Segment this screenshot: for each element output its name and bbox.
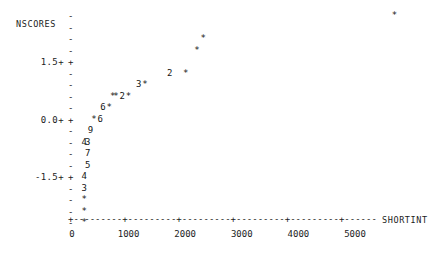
y-axis-tick-mark: - <box>68 80 73 90</box>
y-axis-tick-mark: + <box>68 57 73 67</box>
y-axis-tick-mark: - <box>68 69 73 79</box>
x-axis-tick-label: 3000 <box>222 229 262 239</box>
plot-count-symbol: 5 <box>85 161 90 170</box>
plot-point-symbol: * <box>82 195 87 204</box>
plot-point-symbol: * <box>392 11 397 20</box>
plot-point-symbol: * <box>183 69 188 78</box>
y-axis-tick-mark: - <box>68 126 73 136</box>
x-axis-title: SHORTINT <box>382 215 428 225</box>
plot-count-symbol: 3 <box>82 184 87 193</box>
plot-point-symbol: * <box>194 46 199 55</box>
plot-point-symbol: * <box>113 92 118 101</box>
plot-point-symbol: * <box>107 103 112 112</box>
y-axis-tick-mark: - <box>68 92 73 102</box>
x-axis-tick-label: 1000 <box>109 229 149 239</box>
y-axis-tick-mark: - <box>68 34 73 44</box>
plot-count-symbol: 6 <box>97 115 102 124</box>
y-axis-tick-mark: - <box>68 195 73 205</box>
plot-point-symbol: * <box>200 34 205 43</box>
x-axis-tick-label: 4000 <box>278 229 318 239</box>
y-axis-title: NSCORES <box>16 19 56 29</box>
y-axis-tick-mark: - <box>68 161 73 171</box>
y-axis-tick-mark: + <box>68 115 73 125</box>
x-axis-tick-label: 0 <box>52 229 92 239</box>
plot-point-symbol: * <box>142 80 147 89</box>
x-axis-tick-label: 5000 <box>335 229 375 239</box>
y-axis-tick-label: -1.5+ <box>20 172 64 182</box>
plot-count-symbol: 2 <box>167 69 172 78</box>
y-axis-tick-mark: - <box>68 138 73 148</box>
plot-count-symbol: 7 <box>85 149 90 158</box>
y-axis-tick-mark: - <box>68 103 73 113</box>
y-axis-tick-mark: - <box>68 184 73 194</box>
plot-point-symbol: * <box>126 92 131 101</box>
y-axis-tick-mark: + <box>68 172 73 182</box>
y-axis-tick-mark: - <box>68 46 73 56</box>
plot-count-symbol: 9 <box>88 126 93 135</box>
y-axis-tick-label: 0.0+ <box>20 115 64 125</box>
plot-count-symbol: 6 <box>100 103 105 112</box>
plot-count-symbol: 3 <box>85 138 90 147</box>
y-axis-tick-mark: - <box>68 23 73 33</box>
plot-point-symbol: * <box>91 115 96 124</box>
x-axis-tick-label: 2000 <box>165 229 205 239</box>
y-axis-tick-mark: - <box>68 11 73 21</box>
plot-count-symbol: 4 <box>82 172 87 181</box>
plot-count-symbol: 3 <box>136 80 141 89</box>
y-axis-tick-mark: - <box>68 149 73 159</box>
x-axis-line: +---------+---------+---------+---------… <box>68 214 377 224</box>
plot-count-symbol: 2 <box>120 92 125 101</box>
y-axis-tick-label: 1.5+ <box>20 57 64 67</box>
character-scatter-plot: NSCORES ----+1.5+----+0.0+----+-1.5+----… <box>0 0 438 256</box>
